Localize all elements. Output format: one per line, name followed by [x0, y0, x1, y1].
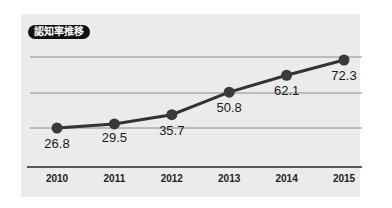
data-point-marker — [52, 123, 63, 134]
x-tick-label: 2012 — [161, 173, 184, 184]
gridlines — [27, 57, 362, 167]
markers — [52, 55, 350, 134]
x-tick-label: 2015 — [333, 173, 356, 184]
data-point-marker — [109, 118, 120, 129]
data-point-marker — [281, 70, 292, 81]
data-label: 26.8 — [44, 136, 69, 151]
series-line — [57, 60, 344, 128]
x-tick-label: 2011 — [104, 173, 126, 184]
data-label: 29.5 — [102, 130, 127, 145]
data-point-marker — [339, 55, 350, 66]
x-tick-label: 2010 — [46, 173, 69, 184]
data-label: 35.7 — [159, 123, 184, 138]
data-point-marker — [166, 109, 177, 120]
data-label: 62.1 — [274, 83, 299, 98]
line-chart: 26.829.535.750.862.172.3 201020112012201… — [0, 0, 392, 208]
value-labels: 26.829.535.750.862.172.3 — [44, 68, 356, 151]
data-point-marker — [224, 87, 235, 98]
data-label: 72.3 — [331, 68, 356, 83]
x-tick-label: 2013 — [218, 173, 241, 184]
x-tick-label: 2014 — [275, 173, 298, 184]
data-label: 50.8 — [217, 100, 242, 115]
x-axis-ticks: 201020112012201320142015 — [46, 173, 356, 184]
